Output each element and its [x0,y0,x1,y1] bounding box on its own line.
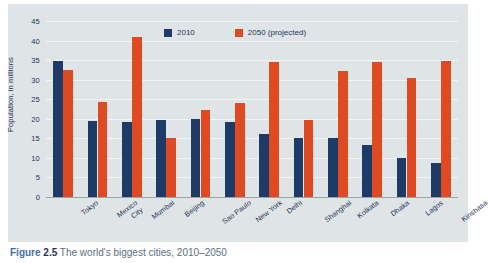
bar-2050projected-sao-paulo [201,110,211,197]
x-axis-tick-label-line: Delhi [285,198,304,215]
bar-2010-sao-paulo [191,119,201,197]
figure-caption: Figure 2.5 The world's biggest cities, 2… [10,247,470,258]
bar-2010-shanghai [294,138,304,197]
x-axis-tick-label-line: Lagos [423,198,444,217]
x-axis-tick-label: Beijing [184,199,207,219]
bar-2050projected-mexico-city [98,102,108,197]
bar-2050projected-kinshasa [441,61,451,197]
y-axis-tick-label: 40 [31,36,40,45]
x-axis-tick-label: Tokyo [80,199,101,217]
bar-2010-beijing [156,120,166,197]
x-axis-tick-label: Lagos [424,199,445,218]
plot-area [46,21,458,197]
chart-legend: 20102050 (projected) [164,28,306,37]
y-axis-tick-label: 20 [31,114,40,123]
bar-2050projected-new-york [235,103,245,197]
bar-2010-delhi [259,134,269,197]
x-axis-tick-label: Sao Paulo [220,199,252,226]
x-axis-tick-label: Kolkata [356,199,381,221]
caption-figure-word: Figure [10,247,41,258]
bar-series-group [46,21,458,197]
bar-2010-kolkata [328,138,338,197]
legend-label: 2010 [177,28,195,37]
bar-2050projected-tokyo [63,70,73,197]
x-axis-tick-label: Mumbai [150,199,176,222]
legend-item: 2010 [164,28,195,37]
bar-2050projected-shanghai [304,120,314,197]
x-axis-tick-label: MexicoCity [115,199,144,227]
x-axis: TokyoMexicoCityMumbaiBeijingSao PauloNew… [46,199,458,245]
bar-2010-mexico-city [88,121,98,197]
y-axis-tick-label: 30 [31,75,40,84]
legend-swatch-icon [235,29,243,37]
caption-text: The world's biggest cities, 2010–2050 [60,247,227,258]
bar-2050projected-beijing [166,138,176,197]
bar-2010-dhaka [362,145,372,197]
x-axis-tick-label-line: Kolkata [355,198,380,220]
x-axis-tick-label-line: Mumbai [149,198,175,221]
bar-2050projected-lagos [407,78,417,197]
y-axis-tick-label: 10 [31,153,40,162]
bar-2010-lagos [397,158,407,197]
bar-group [362,21,382,197]
legend-swatch-icon [164,29,172,37]
axis-baseline [46,197,458,198]
y-axis-tick-label: 0 [36,193,40,202]
bar-2050projected-kolkata [338,71,348,197]
bar-group [328,21,348,197]
x-axis-tick-label: Shanghai [323,199,353,225]
x-axis-tick-label: Delhi [286,199,305,216]
bar-2050projected-dhaka [372,62,382,197]
y-axis-tick-label: 5 [36,173,40,182]
bar-2010-tokyo [53,61,63,197]
caption-number: 2.5 [43,247,57,258]
bar-group [88,21,108,197]
x-axis-tick-label-line: Beijing [183,198,206,219]
x-axis-tick-label-line: Shanghai [322,198,352,224]
x-axis-tick-label-line: Tokyo [79,198,100,217]
bar-group [294,21,314,197]
bar-2010-mumbai [122,122,132,197]
bar-group [53,21,73,197]
y-axis-tick-label: 15 [31,134,40,143]
y-axis-tick-label: 35 [31,56,40,65]
y-axis-tick-label: 25 [31,95,40,104]
chart-panel: 051015202530354045 Population, in millio… [8,4,468,242]
y-axis-tick-label: 45 [31,17,40,26]
x-axis-tick-label-line: Sao Paulo [220,198,253,226]
x-axis-tick-label-line: New York [254,198,284,224]
bar-group [156,21,176,197]
y-axis-title: Population, in millions [6,57,15,132]
x-axis-tick-label: Kinshasa [460,199,489,224]
bar-2010-kinshasa [431,163,441,197]
bar-group [122,21,142,197]
bar-group [259,21,279,197]
legend-item: 2050 (projected) [235,28,306,37]
bar-group [191,21,211,197]
bar-group [431,21,451,197]
x-axis-tick-label-line: Dhaka [389,198,411,218]
bar-group [225,21,245,197]
bar-2010-new-york [225,122,235,197]
x-axis-tick-label: Dhaka [389,199,411,219]
legend-label: 2050 (projected) [248,28,306,37]
bar-2050projected-mumbai [132,37,142,197]
bar-group [397,21,417,197]
x-axis-tick-label: New York [254,199,284,225]
bar-2050projected-delhi [269,62,279,197]
x-axis-tick-label-line: Kinshasa [459,198,489,223]
